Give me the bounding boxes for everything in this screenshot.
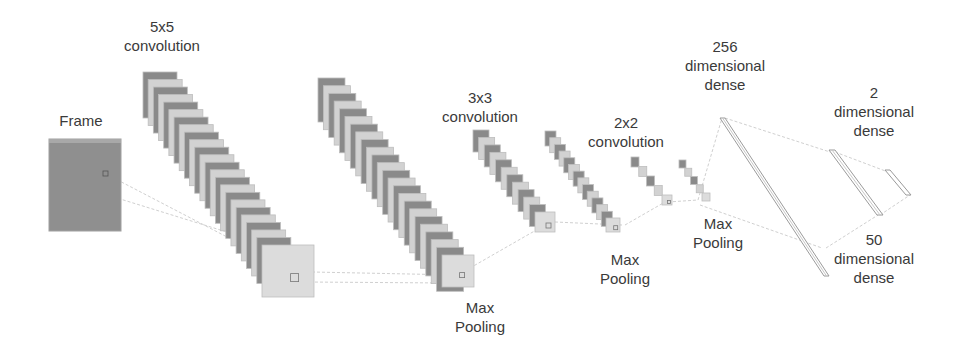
label-pool3-line1: Max: [693, 214, 743, 233]
input-frame: [49, 139, 121, 231]
label-conv-2x2: 2x2 convolution: [588, 113, 664, 151]
label-dense50-size: 50: [834, 230, 914, 249]
label-dense50-line3: dense: [834, 268, 914, 287]
dense-2-layer: [885, 170, 911, 195]
label-pool2-line2: Pooling: [600, 269, 650, 288]
label-max-pooling-2: Max Pooling: [600, 250, 650, 288]
label-dense2-line2: dimensional: [834, 102, 914, 121]
label-dense-50: 50 dimensional dense: [834, 230, 914, 287]
dense-256-layer: [720, 118, 829, 276]
label-dense256-size: 256: [685, 37, 765, 56]
label-conv3-size: 3x3: [442, 88, 518, 107]
label-dense-2: 2 dimensional dense: [834, 83, 914, 140]
max-pooling-3-stack: [679, 160, 710, 201]
label-pool3-line2: Pooling: [693, 233, 743, 252]
label-conv-5x5: 5x5 convolution: [124, 17, 200, 55]
conv-2x2-stack: [631, 157, 672, 205]
label-conv3-type: convolution: [442, 107, 518, 126]
label-dense-256: 256 dimensional dense: [685, 37, 765, 94]
connector-conv2-pool3: [668, 200, 698, 202]
label-pool1-line1: Max: [455, 298, 505, 317]
label-max-pooling-1: Max Pooling: [455, 298, 505, 336]
label-frame-text: Frame: [59, 112, 102, 129]
connector-pool1-conv3: [470, 225, 545, 268]
label-conv2-size: 2x2: [588, 113, 664, 132]
label-dense256-line2: dimensional: [685, 56, 765, 75]
label-pool1-line2: Pooling: [455, 317, 505, 336]
label-conv-3x3: 3x3 convolution: [442, 88, 518, 126]
label-pool2-line1: Max: [600, 250, 650, 269]
connector-pool2-conv2: [625, 202, 665, 225]
label-frame: Frame: [59, 111, 102, 130]
label-conv5-type: convolution: [124, 36, 200, 55]
label-conv5-size: 5x5: [124, 17, 200, 36]
label-dense50-line2: dimensional: [834, 249, 914, 268]
conv-3x3-stack: [473, 130, 555, 232]
cnn-architecture-diagram: Frame 5x5 convolution Max Pooling 3x3 co…: [0, 0, 964, 363]
label-dense2-size: 2: [834, 83, 914, 102]
label-dense2-line3: dense: [834, 121, 914, 140]
label-dense256-line3: dense: [685, 75, 765, 94]
label-max-pooling-3: Max Pooling: [693, 214, 743, 252]
label-conv2-type: convolution: [588, 132, 664, 151]
conv-5x5-stack: [143, 72, 314, 297]
